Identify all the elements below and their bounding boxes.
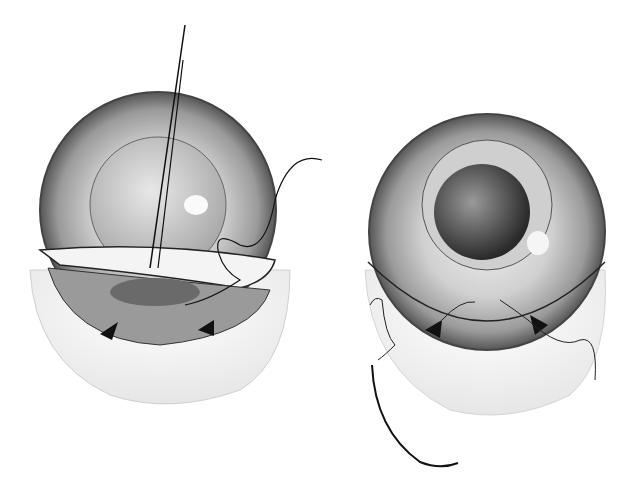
right-eye-panel <box>365 114 606 466</box>
surgical-illustration <box>0 0 636 483</box>
left-eye-panel <box>30 25 322 404</box>
illustration-canvas <box>0 0 636 483</box>
